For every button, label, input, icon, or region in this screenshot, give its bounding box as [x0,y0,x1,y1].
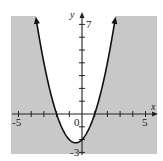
y-axis-label: y [69,9,75,20]
x-max-label: 5 [142,116,148,128]
y-min-label: -3 [70,146,80,158]
graph: x y -5 5 0 7 -3 [0,0,163,161]
y-axis-arrow-icon [80,12,85,18]
x-axis-label: x [150,101,156,112]
y-max-label: 7 [86,18,92,30]
origin-label: 0 [74,116,80,128]
x-min-label: -5 [12,116,22,128]
